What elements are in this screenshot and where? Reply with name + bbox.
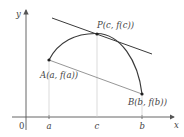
y-axis-label: y — [15, 9, 21, 19]
point-A — [47, 58, 50, 61]
tick-label-a: a — [47, 121, 52, 131]
point-B — [140, 92, 143, 95]
point-P — [95, 32, 98, 35]
origin-label: 0 — [19, 121, 24, 131]
label-P: P(c, f(c)) — [96, 20, 134, 30]
x-axis-label: x — [174, 120, 179, 130]
tick-label-c: c — [95, 121, 100, 131]
tick-label-b: b — [140, 121, 145, 131]
label-A: A(a, f(a)) — [39, 70, 78, 80]
curve — [49, 33, 142, 94]
mvt-diagram: y x 0 a c b P(c, f(c)) A(a, f(a)) B(b, f… — [0, 0, 184, 137]
label-B: B(b, f(b)) — [127, 97, 167, 107]
